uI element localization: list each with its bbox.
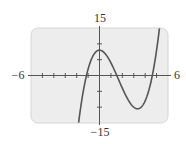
x-min-label: −6: [12, 68, 25, 82]
x-max-label: 6: [174, 68, 180, 82]
y-max-label: 15: [94, 11, 106, 25]
function-plot: 15 −15 −6 6: [0, 0, 186, 144]
y-min-label: −15: [91, 125, 110, 139]
